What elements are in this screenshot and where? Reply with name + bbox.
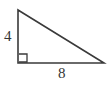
triangle-drawing: [0, 0, 108, 87]
triangle-figure: 4 8: [0, 0, 108, 87]
triangle-outline: [18, 10, 104, 63]
vertical-leg-label: 4: [4, 29, 12, 44]
horizontal-leg-label: 8: [58, 66, 66, 81]
right-angle-square-icon: [19, 54, 27, 62]
